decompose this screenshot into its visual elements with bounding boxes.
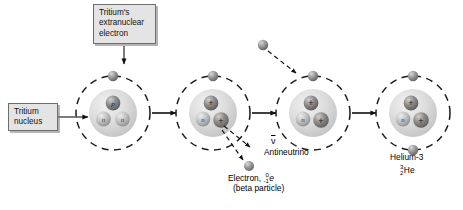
svg-text:+: + bbox=[208, 98, 213, 108]
beta-decay-diagram: p n n + n + bbox=[0, 0, 463, 210]
svg-text:n: n bbox=[201, 116, 205, 124]
electron-label-prefix: Electron, bbox=[228, 173, 263, 183]
beta-particle bbox=[244, 161, 254, 171]
electron-capture-arrow bbox=[268, 51, 296, 73]
callout-tritium-nucleus: Tritium nucleus bbox=[8, 103, 58, 131]
atom-4-helium3-atom: + n + bbox=[376, 71, 450, 155]
svg-text:+: + bbox=[308, 98, 313, 108]
svg-text:n: n bbox=[301, 116, 305, 124]
svg-text:+: + bbox=[418, 116, 423, 126]
svg-text:+: + bbox=[318, 116, 323, 126]
electron-symbol: e bbox=[269, 173, 274, 183]
svg-text:n: n bbox=[401, 116, 405, 124]
svg-text:+: + bbox=[218, 116, 223, 126]
svg-text:p: p bbox=[110, 100, 115, 108]
callout-extranuclear-electron: Tritium's extranuclear electron bbox=[93, 4, 156, 44]
antineutrino-symbol: ν bbox=[271, 136, 276, 146]
electron-emission-arrow bbox=[222, 130, 243, 160]
helium-atomic-number: 2 bbox=[400, 170, 403, 176]
svg-text:n: n bbox=[121, 116, 125, 124]
svg-text:n: n bbox=[102, 116, 106, 124]
helium-nuclide-numbers: 32 bbox=[400, 164, 403, 176]
helium-3-label: Helium-3 bbox=[390, 152, 424, 162]
incoming-free-electron bbox=[258, 40, 268, 50]
beta-particle-label: (beta particle) bbox=[233, 183, 284, 193]
antineutrino-label: Antineutrino bbox=[264, 147, 309, 157]
atom-3-helium3-ion: + n + bbox=[276, 71, 350, 150]
svg-text:+: + bbox=[408, 98, 413, 108]
atom-1-tritium: p n n bbox=[76, 71, 150, 150]
helium-element-symbol: He bbox=[404, 165, 415, 175]
helium-3-nuclide-symbol: 32He bbox=[400, 164, 415, 176]
